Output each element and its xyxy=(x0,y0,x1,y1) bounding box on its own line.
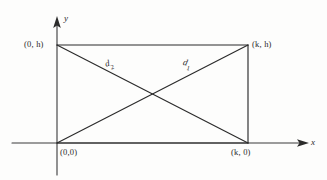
vertex-label-top-left: (0, h) xyxy=(24,40,44,49)
x-axis-label: x xyxy=(311,138,315,147)
y-axis-label: y xyxy=(64,14,68,23)
vertex-label-bottom-right: (k, 0) xyxy=(231,148,251,157)
geometry-figure: (0, h) (k, h) (0,0) (k, 0) y x d2 d1 xyxy=(0,0,327,180)
figure-canvas xyxy=(0,0,327,180)
vertex-label-top-right: (k, h) xyxy=(252,40,272,49)
vertex-label-origin: (0,0) xyxy=(60,148,77,157)
